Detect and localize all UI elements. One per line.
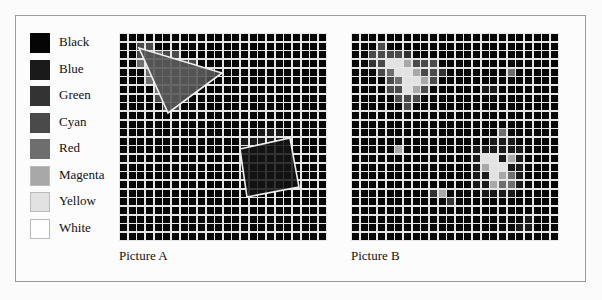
- pixel-grid-b: [351, 33, 559, 241]
- legend-label: Blue: [59, 61, 84, 77]
- color-swatch: [30, 192, 50, 212]
- color-swatch: [30, 219, 50, 239]
- legend-label: Magenta: [59, 167, 104, 183]
- legend-item-blue: Blue: [30, 60, 130, 82]
- legend-item-white: White: [30, 219, 130, 241]
- legend-label: Cyan: [59, 114, 86, 130]
- picture-caption: Picture B: [351, 248, 400, 264]
- color-swatch: [30, 139, 50, 159]
- legend-label: Yellow: [59, 193, 96, 209]
- legend-label: White: [59, 220, 91, 236]
- picture-caption: Picture A: [119, 248, 168, 264]
- legend-label: Green: [59, 87, 91, 103]
- legend-item-yellow: Yellow: [30, 192, 130, 214]
- color-swatch: [30, 33, 50, 53]
- color-swatch: [30, 166, 50, 186]
- legend-item-cyan: Cyan: [30, 113, 130, 135]
- legend-item-green: Green: [30, 86, 130, 108]
- legend-label: Red: [59, 140, 80, 156]
- pixel-grid-a: [119, 33, 327, 241]
- color-swatch: [30, 113, 50, 133]
- color-swatch: [30, 86, 50, 106]
- legend-item-black: Black: [30, 33, 130, 55]
- legend-item-magenta: Magenta: [30, 166, 130, 188]
- legend-item-red: Red: [30, 139, 130, 161]
- legend-label: Black: [59, 34, 89, 50]
- color-swatch: [30, 60, 50, 80]
